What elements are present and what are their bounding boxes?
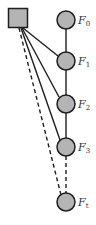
hub-square-node [9, 9, 28, 28]
svg-text:F0: F0 [77, 14, 90, 28]
edge-hub-f3 [21, 28, 60, 140]
node-f0: F0 [57, 11, 90, 29]
svg-text:F3: F3 [77, 141, 90, 155]
node-ft: Ft [57, 193, 89, 211]
node-f3-base: F [77, 141, 86, 154]
node-f1-base: F [77, 55, 86, 68]
edge-hub-f1 [23, 28, 58, 56]
node-f3-sub: 3 [86, 147, 90, 155]
factor-graph-diagram: F0 F1 F2 F3 Ft [0, 0, 96, 225]
node-f1: F1 [57, 52, 90, 70]
node-f1-sub: 1 [86, 61, 90, 69]
svg-text:F1: F1 [77, 55, 90, 69]
node-f2-base: F [77, 98, 86, 111]
svg-text:Ft: Ft [77, 196, 89, 210]
node-f0-sub: 0 [86, 20, 90, 28]
node-ft-sub: t [86, 202, 89, 210]
node-ft-base: F [77, 196, 86, 209]
node-f0-base: F [77, 14, 86, 27]
svg-text:F2: F2 [77, 98, 90, 112]
node-f2-sub: 2 [86, 104, 90, 112]
node-f2: F2 [57, 95, 90, 113]
node-f3: F3 [57, 138, 90, 156]
